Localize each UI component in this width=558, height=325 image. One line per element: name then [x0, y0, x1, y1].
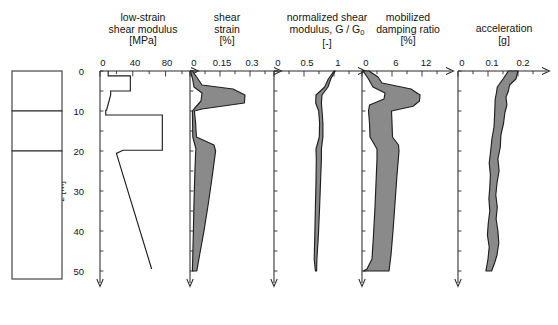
data-band-shear-strain [190, 71, 245, 271]
soil-layer-clayey-silt-nc [12, 151, 62, 279]
data-band-normalized-shear-modulus [314, 71, 335, 271]
panel-acceleration [455, 68, 550, 287]
panel-mobilized-damping-ratio [359, 68, 454, 287]
data-curve-low-strain-shear-modulus [106, 71, 163, 269]
plot-panels-group [97, 68, 550, 287]
soil-layer-sand [12, 111, 62, 151]
panel-normalized-shear-modulus [271, 68, 366, 287]
soil-column-group [12, 71, 62, 279]
soil-response-profile-figure: low-strain shear modulus [MPa] shear str… [0, 0, 558, 325]
panel-low-strain-shear-modulus [97, 68, 199, 287]
figure-canvas [0, 0, 558, 325]
data-band-acceleration [486, 71, 518, 271]
soil-layer-clayey-silt-oc [12, 71, 62, 111]
panel-shear-strain [187, 68, 282, 287]
data-band-mobilized-damping-ratio [363, 71, 420, 271]
